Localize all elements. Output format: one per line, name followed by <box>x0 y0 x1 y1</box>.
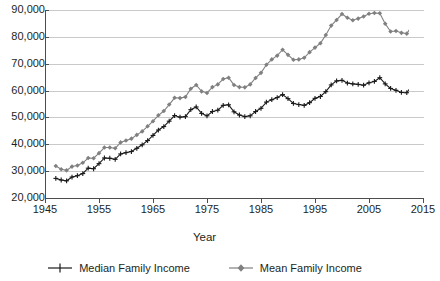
data-point-marker <box>372 11 377 16</box>
data-point-marker <box>124 138 129 143</box>
data-point-marker <box>367 11 372 16</box>
legend-label-median: Median Family Income <box>79 263 190 274</box>
data-point-marker <box>361 14 366 19</box>
series-line <box>56 78 409 181</box>
data-point-marker <box>75 163 80 168</box>
chart-legend: Median Family Income Mean Family Income <box>0 258 409 278</box>
data-point-marker <box>356 16 361 21</box>
data-point-marker <box>351 18 356 23</box>
diamond-marker-icon <box>228 262 254 274</box>
data-point-marker <box>399 31 404 36</box>
series-mean <box>54 11 410 173</box>
data-point-marker <box>297 57 302 62</box>
legend-item-mean: Mean Family Income <box>228 262 362 274</box>
plus-marker-icon <box>47 262 73 274</box>
legend-label-mean: Mean Family Income <box>260 263 362 274</box>
data-point-marker <box>108 145 113 150</box>
data-point-marker <box>178 96 183 101</box>
data-point-marker <box>237 85 242 90</box>
data-point-marker <box>243 85 248 90</box>
data-point-marker <box>394 29 399 34</box>
data-point-marker <box>54 164 59 169</box>
data-point-marker <box>378 11 383 16</box>
data-point-marker <box>59 167 64 172</box>
legend-item-median: Median Family Income <box>47 262 190 274</box>
series-median <box>53 75 409 183</box>
